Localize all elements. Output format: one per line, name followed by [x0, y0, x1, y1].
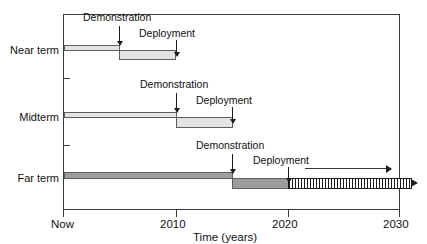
midterm-deployment-arrow-icon [232, 107, 233, 120]
x-axis-tick-2030 [399, 210, 400, 217]
near-term-demonstration-bar [119, 50, 176, 60]
row-label-near-term: Near term [6, 45, 59, 56]
midterm-demonstration-label: Demonstration [140, 79, 208, 90]
far-term-demonstration-arrow-icon [232, 154, 233, 170]
far-term-deployment-label: Deployment [253, 155, 309, 166]
x-axis-tick-2020 [288, 210, 289, 217]
row-label-midterm: Midterm [6, 112, 59, 123]
far-term-continuation-arrowhead-icon [411, 179, 418, 187]
timeline-chart: Near term Midterm Far term Demonstration… [0, 0, 427, 244]
near-term-deployment-arrow-icon [176, 40, 177, 53]
y-axis-tick-2 [64, 145, 70, 146]
midterm-demonstration-arrow-icon [176, 93, 177, 109]
far-term-ongoing-arrow-icon [305, 168, 391, 169]
x-axis-tick-now [63, 210, 64, 217]
midterm-demonstration-bar [176, 117, 233, 128]
far-term-development-bar [64, 172, 233, 179]
far-term-demonstration-bar [232, 178, 289, 189]
near-term-demonstration-arrow-icon [119, 26, 120, 42]
x-axis-title: Time (years) [193, 231, 257, 243]
x-tick-label-now: Now [51, 218, 74, 230]
far-term-demonstration-label: Demonstration [196, 140, 264, 151]
x-tick-label-2010: 2010 [160, 218, 186, 230]
y-axis-tick-1 [64, 78, 70, 79]
near-term-development-bar [64, 45, 120, 51]
near-term-deployment-label: Deployment [139, 28, 195, 39]
midterm-development-bar [64, 112, 177, 118]
x-tick-label-2030: 2030 [383, 218, 409, 230]
x-tick-label-2020: 2020 [272, 218, 298, 230]
row-label-far-term: Far term [6, 173, 59, 184]
far-term-deployment-arrow-icon [288, 167, 289, 179]
x-axis-tick-2010 [176, 210, 177, 217]
far-term-deployment-bar [288, 178, 412, 189]
near-term-demonstration-label: Demonstration [83, 12, 151, 23]
midterm-deployment-label: Deployment [196, 95, 252, 106]
